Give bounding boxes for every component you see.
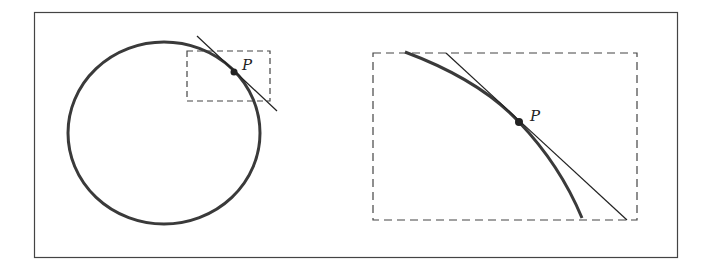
- outer-frame: [35, 13, 678, 258]
- magnified-curve: [405, 52, 582, 218]
- left-panel: P: [68, 36, 277, 224]
- diagram-canvas: P P: [0, 0, 708, 275]
- point-p-label: P: [241, 56, 253, 74]
- magnified-point-p-label: P: [529, 107, 541, 125]
- right-panel: P: [373, 52, 637, 220]
- magnified-point-p: [515, 118, 523, 126]
- magnified-tangent-line: [446, 53, 627, 220]
- circle: [68, 42, 260, 224]
- point-p: [231, 69, 238, 76]
- magnified-region-box: [373, 53, 637, 220]
